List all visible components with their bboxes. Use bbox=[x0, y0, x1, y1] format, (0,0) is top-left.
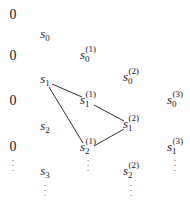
zero-label: 0 bbox=[10, 94, 17, 108]
vertical-dots-icon: ··· bbox=[172, 158, 178, 173]
zero-label: 0 bbox=[10, 8, 17, 22]
node-s2_2: s2(2) bbox=[123, 164, 139, 180]
node-s3: s3 bbox=[40, 164, 50, 180]
node-superscript: (3) bbox=[173, 136, 184, 146]
edge-s2_1-to-s1_2 bbox=[94, 129, 124, 146]
vertical-dots-icon: ··· bbox=[85, 158, 91, 173]
node-s1: s1 bbox=[40, 72, 50, 88]
edge-s1_1-to-s1_2 bbox=[94, 105, 124, 121]
node-subscript: 1 bbox=[85, 99, 90, 109]
node-subscript: 0 bbox=[128, 76, 133, 86]
node-subscript: 3 bbox=[45, 170, 50, 180]
vertical-dots-icon: ··· bbox=[10, 158, 16, 173]
node-s1_1: s1(1) bbox=[80, 93, 96, 109]
node-subscript: 0 bbox=[172, 99, 177, 109]
node-s0: s0 bbox=[40, 27, 50, 43]
node-superscript: (2) bbox=[129, 160, 140, 170]
node-subscript: 2 bbox=[45, 125, 50, 135]
node-subscript: 0 bbox=[85, 54, 90, 64]
node-s2: s2 bbox=[40, 119, 50, 135]
node-s1_2: s1(2) bbox=[123, 117, 139, 133]
node-subscript: 1 bbox=[45, 78, 50, 88]
node-s0_1: s0(1) bbox=[80, 48, 96, 64]
node-superscript: (1) bbox=[86, 136, 97, 146]
node-subscript: 0 bbox=[45, 33, 50, 43]
vertical-dots-icon: ··· bbox=[42, 183, 48, 198]
edge-s1-to-s1_1 bbox=[52, 84, 82, 97]
node-s0_2: s0(2) bbox=[123, 70, 139, 86]
node-subscript: 2 bbox=[128, 170, 133, 180]
sequence-diagram: 0000···s0s1s2s3s0(1)s1(1)s2(1)s0(2)s1(2)… bbox=[0, 0, 190, 207]
zero-label: 0 bbox=[10, 140, 17, 154]
node-s0_3: s0(3) bbox=[167, 93, 183, 109]
node-subscript: 1 bbox=[128, 123, 133, 133]
node-superscript: (2) bbox=[129, 66, 140, 76]
node-s2_1: s2(1) bbox=[80, 140, 96, 156]
node-s1_3: s1(3) bbox=[167, 140, 183, 156]
node-superscript: (2) bbox=[129, 113, 140, 123]
node-superscript: (3) bbox=[173, 89, 184, 99]
node-superscript: (1) bbox=[86, 44, 97, 54]
node-superscript: (1) bbox=[86, 89, 97, 99]
vertical-dots-icon: ··· bbox=[128, 183, 134, 198]
zero-label: 0 bbox=[10, 49, 17, 63]
